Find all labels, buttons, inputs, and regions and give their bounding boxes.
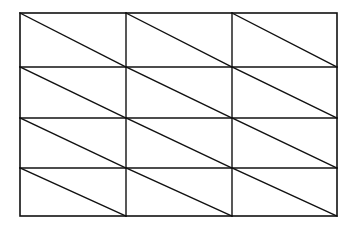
figure-canvas bbox=[0, 0, 356, 231]
triangulated-grid-figure bbox=[0, 0, 356, 231]
figure-background bbox=[0, 0, 356, 231]
